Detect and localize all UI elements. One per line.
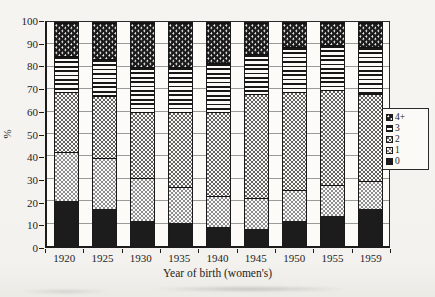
bar-segment-1930-children-2 — [131, 112, 154, 179]
bar-segment-1925-children-1 — [93, 158, 116, 209]
x-tick-mark-9 — [390, 249, 391, 253]
x-tick-label-1935: 1935 — [160, 252, 198, 264]
bar-segment-1940-children-3 — [207, 63, 230, 112]
y-tick-label-70: 70 — [0, 83, 38, 95]
stacked-bar-1940 — [206, 22, 231, 246]
bar-segment-1925-children-0 — [93, 209, 116, 245]
x-tick-label-1945: 1945 — [237, 252, 275, 264]
category-slot-1925 — [85, 22, 123, 246]
bar-segment-1955-children-2 — [321, 90, 344, 185]
y-tick-label-60: 60 — [0, 106, 38, 118]
category-slot-1945 — [237, 22, 275, 246]
bar-segment-1940-children-2 — [207, 112, 230, 196]
bar-segment-1950-children-1 — [283, 190, 306, 221]
y-tick-mark-70 — [39, 89, 44, 90]
bar-segment-1950-children-3 — [283, 47, 306, 91]
bar-segment-1945-children-3 — [245, 54, 268, 94]
bar-segment-1959-children-3 — [359, 47, 382, 94]
y-tick-label-100: 100 — [0, 15, 38, 27]
category-slot-1930 — [123, 22, 161, 246]
bar-segment-1950-children-0 — [283, 221, 306, 245]
scan-artifact — [150, 286, 350, 292]
bar-segment-1935-children-3 — [169, 67, 192, 111]
category-slot-1955 — [313, 22, 351, 246]
category-slot-1935 — [161, 22, 199, 246]
x-tick-label-1925: 1925 — [84, 252, 122, 264]
y-tick-mark-40 — [39, 157, 44, 158]
legend-entry-1: 1 — [386, 145, 426, 155]
legend-entry-4+: 4+ — [386, 112, 426, 122]
legend-entry-2: 2 — [386, 134, 426, 144]
bar-segment-1935-children-0 — [169, 223, 192, 245]
bar-segment-1935-children-4+ — [169, 23, 192, 67]
category-slot-1950 — [275, 22, 313, 246]
y-tick-label-90: 90 — [0, 38, 38, 50]
stacked-bar-1925 — [92, 22, 117, 246]
y-tick-mark-50 — [39, 135, 44, 136]
y-tick-mark-30 — [39, 180, 44, 181]
category-slot-1940 — [199, 22, 237, 246]
bar-segment-1920-children-1 — [55, 152, 78, 201]
bar-segment-1950-children-4+ — [283, 23, 306, 47]
legend-label-3: 3 — [395, 123, 400, 133]
bar-segment-1959-children-2 — [359, 94, 382, 181]
legend-entry-0: 0 — [386, 156, 426, 166]
bar-segment-1920-children-2 — [55, 92, 78, 152]
y-tick-mark-100 — [39, 21, 44, 22]
bar-segment-1930-children-0 — [131, 221, 154, 245]
bar-segment-1945-children-4+ — [245, 23, 268, 54]
bar-segment-1930-children-4+ — [131, 23, 154, 67]
x-tick-label-1955: 1955 — [314, 252, 352, 264]
legend-label-1: 1 — [395, 145, 400, 155]
y-tick-label-10: 10 — [0, 219, 38, 231]
category-slot-1920 — [47, 22, 85, 246]
bar-segment-1935-children-2 — [169, 112, 192, 187]
legend-entry-3: 3 — [386, 123, 426, 133]
legend-label-0: 0 — [395, 156, 400, 166]
bar-segment-1940-children-4+ — [207, 23, 230, 63]
x-tick-label-1920: 1920 — [45, 252, 83, 264]
bar-segment-1940-children-1 — [207, 196, 230, 227]
bar-segment-1920-children-0 — [55, 201, 78, 245]
bar-segment-1920-children-4+ — [55, 23, 78, 56]
bar-segment-1925-children-2 — [93, 96, 116, 158]
y-tick-mark-20 — [39, 203, 44, 204]
scan-artifact — [20, 289, 110, 294]
y-tick-mark-60 — [39, 112, 44, 113]
bar-segment-1945-children-2 — [245, 94, 268, 198]
y-tick-mark-80 — [39, 66, 44, 67]
y-tick-mark-0 — [39, 248, 44, 249]
y-tick-label-30: 30 — [0, 174, 38, 186]
bar-segment-1945-children-1 — [245, 198, 268, 229]
x-tick-label-1940: 1940 — [199, 252, 237, 264]
stacked-bar-1920 — [54, 22, 79, 246]
legend-label-4+: 4+ — [395, 112, 405, 122]
stacked-bar-1955 — [320, 22, 345, 246]
plot-area — [45, 21, 390, 248]
x-axis-title: Year of birth (women's) — [45, 267, 390, 279]
bar-segment-1930-children-1 — [131, 178, 154, 220]
y-tick-label-0: 0 — [0, 242, 38, 254]
x-tick-label-1930: 1930 — [122, 252, 160, 264]
y-tick-label-50: 50 — [0, 129, 38, 141]
bar-segment-1955-children-0 — [321, 216, 344, 245]
bar-segment-1940-children-0 — [207, 227, 230, 245]
y-tick-mark-10 — [39, 225, 44, 226]
stacked-bar-1959 — [358, 22, 383, 246]
bar-segment-1959-children-1 — [359, 181, 382, 210]
x-tick-label-1959: 1959 — [352, 252, 390, 264]
bar-segment-1925-children-3 — [93, 59, 116, 97]
y-tick-label-20: 20 — [0, 197, 38, 209]
bar-segment-1955-children-3 — [321, 45, 344, 89]
bar-segment-1935-children-1 — [169, 187, 192, 223]
stacked-bar-1930 — [130, 22, 155, 246]
bar-segment-1945-children-0 — [245, 229, 268, 245]
bar-segment-1955-children-4+ — [321, 23, 344, 45]
figure-page: % Year of birth (women's) 4+3210 0102030… — [0, 0, 435, 297]
bar-segment-1955-children-1 — [321, 185, 344, 216]
bar-segment-1925-children-4+ — [93, 23, 116, 59]
bar-segment-1959-children-4+ — [359, 23, 382, 47]
y-tick-label-80: 80 — [0, 60, 38, 72]
bar-segment-1930-children-3 — [131, 67, 154, 111]
stacked-bar-1945 — [244, 22, 269, 246]
